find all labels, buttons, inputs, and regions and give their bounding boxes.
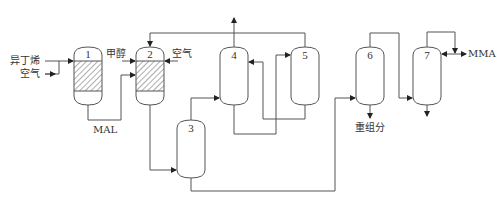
isobutylene-label: 异丁烯 xyxy=(10,56,40,66)
air-label-2: 空气 xyxy=(172,49,192,59)
vessel-7-label: 7 xyxy=(424,50,430,61)
heavy-components-label: 重组分 xyxy=(355,123,385,133)
vessel-1-label: 1 xyxy=(85,49,91,60)
line-4-to-5 xyxy=(234,55,290,134)
mal-label: MAL xyxy=(93,125,117,135)
vessel-3-label: 3 xyxy=(188,123,194,134)
vessel-6-label: 6 xyxy=(367,50,373,61)
vessel-2-label: 2 xyxy=(147,49,153,60)
mma-label: MMA xyxy=(468,49,496,59)
methanol-label: 甲醇 xyxy=(106,49,126,59)
air-label-1: 空气 xyxy=(20,69,40,79)
line-3-to-4 xyxy=(191,98,219,120)
vessel-5-label: 5 xyxy=(302,50,308,61)
process-flow-diagram xyxy=(0,0,497,205)
vessel-4-label: 4 xyxy=(231,50,237,61)
line-6-to-7 xyxy=(370,33,412,98)
line-5-to-4 xyxy=(249,62,305,119)
reflux-line xyxy=(427,32,455,53)
air-feed-line-1 xyxy=(45,61,59,74)
line-3-to-6 xyxy=(191,98,355,191)
recycle-line xyxy=(150,33,305,47)
line-2-to-3 xyxy=(150,105,176,170)
